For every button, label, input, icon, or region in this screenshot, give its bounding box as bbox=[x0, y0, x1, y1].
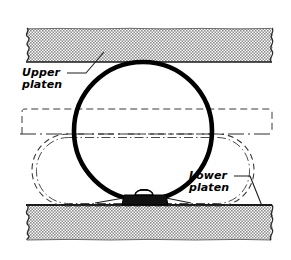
lower-platen-bottom-edge bbox=[27, 239, 271, 240]
sample-block-body bbox=[122, 195, 168, 205]
upper-platen-label: Upper platen bbox=[22, 67, 62, 90]
sample-flange-right bbox=[166, 198, 191, 203]
lower-platen-fill bbox=[25, 205, 273, 240]
upper-phantom-boundary bbox=[22, 109, 272, 134]
lower-platen bbox=[25, 205, 273, 240]
lower-platen-label: Lower platen bbox=[189, 170, 229, 193]
diagram-canvas: Upper platen Lower platen bbox=[0, 0, 291, 260]
sample-flange-left bbox=[95, 198, 124, 203]
diagram-svg bbox=[0, 0, 291, 260]
upper-platen bbox=[25, 28, 273, 62]
upper-phantom-box-path bbox=[22, 109, 272, 134]
upper-platen-fill bbox=[25, 28, 273, 62]
